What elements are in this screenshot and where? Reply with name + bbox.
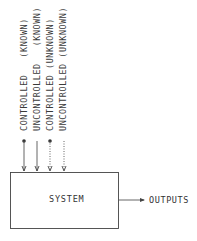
system-label: SYSTEM [49, 194, 85, 204]
input-arrow-uncontrolled-known [35, 141, 39, 171]
input-arrow-controlled-unknown [48, 139, 52, 171]
input-arrow-controlled-known [22, 139, 26, 171]
output-arrow [118, 198, 145, 202]
input-arrow-uncontrolled-unknown [62, 141, 66, 171]
output-label: OUTPUTS [149, 195, 189, 205]
